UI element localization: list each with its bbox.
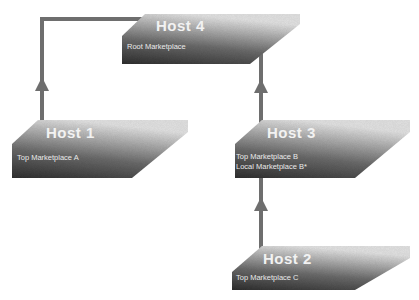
host2-platform [232, 246, 410, 290]
host3-title: Host 3 [267, 124, 316, 141]
host3-subtitle-1: Top Marketplace B [236, 152, 298, 162]
arrow-up-icon [35, 77, 49, 91]
host1-platform [12, 120, 188, 178]
diagram-canvas [0, 0, 419, 300]
host1-title: Host 1 [46, 124, 95, 141]
host2-subtitle: Top Marketplace C [236, 273, 299, 283]
arrow-up-icon [254, 79, 268, 93]
host4-subtitle: Root Marketplace [127, 42, 186, 52]
host4-platform [122, 14, 300, 64]
arrow-up-icon [254, 197, 268, 211]
host2-title: Host 2 [263, 250, 312, 267]
host3-subtitle-2: Local Marketplace B* [236, 162, 307, 172]
host4-title: Host 4 [156, 17, 205, 34]
host1-subtitle: Top Marketplace A [17, 153, 79, 163]
